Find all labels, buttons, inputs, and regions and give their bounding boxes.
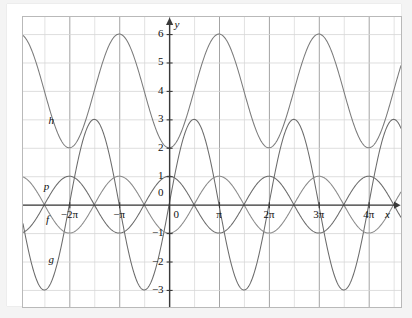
y-tick-label: 2	[23, 141, 164, 153]
y-tick-label: −3	[23, 283, 164, 295]
x-tick-label: −2π	[57, 208, 81, 220]
y-tick-label: −2	[23, 255, 164, 267]
plot-frame: 654321−1−2−300−2π−ππ2π3π4πyxhgpf	[22, 16, 402, 308]
y-axis-arrow	[166, 18, 173, 26]
x-origin-label: 0	[174, 208, 180, 220]
x-axis-name: x	[385, 208, 390, 220]
y-tick-label: 3	[23, 112, 164, 124]
y-tick-label: 5	[23, 55, 164, 67]
x-tick-label: 2π	[257, 208, 281, 220]
x-tick-label: −π	[107, 208, 131, 220]
figure-paper: 654321−1−2−300−2π−ππ2π3π4πyxhgpf	[7, 4, 401, 306]
y-tick-label: −1	[23, 226, 164, 238]
x-tick-label: 3π	[307, 208, 331, 220]
x-tick-label: 4π	[357, 208, 381, 220]
x-tick-label: π	[207, 208, 231, 220]
y-axis-name: y	[175, 18, 180, 30]
figure-canvas: 654321−1−2−300−2π−ππ2π3π4πyxhgpf	[0, 0, 412, 318]
x-axis-arrow	[394, 202, 401, 209]
curve-label-p: p	[44, 180, 50, 192]
y-tick-label: 6	[23, 27, 164, 39]
curve-label-g: g	[48, 253, 54, 265]
curve-label-f: f	[46, 213, 49, 225]
y-tick-label: 4	[23, 84, 164, 96]
curve-label-h: h	[48, 114, 54, 126]
